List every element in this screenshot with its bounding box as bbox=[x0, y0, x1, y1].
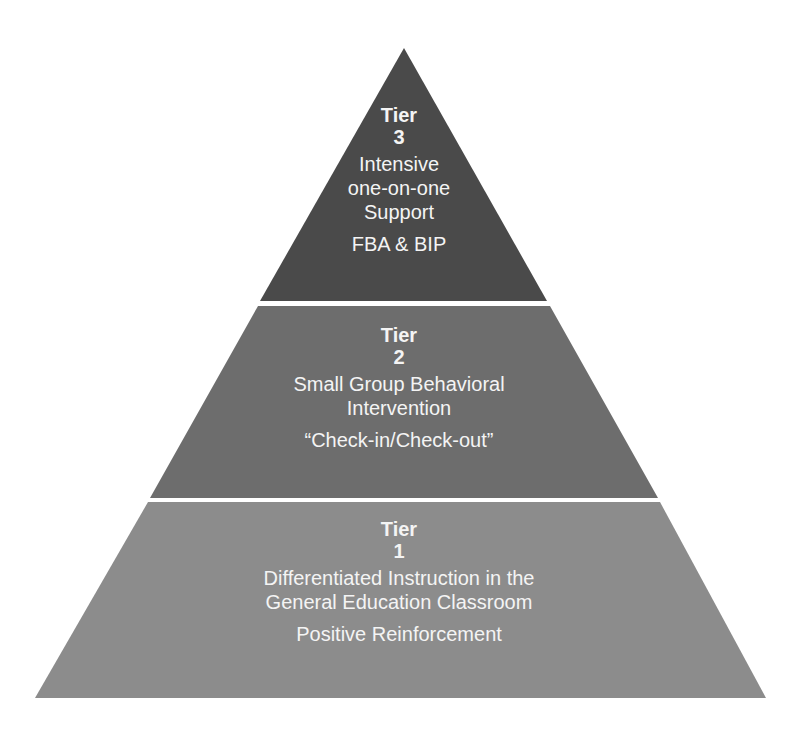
tier-2-number: 2 bbox=[0, 346, 798, 368]
tier-1-title: Tier bbox=[0, 518, 798, 540]
tier-1-number: 1 bbox=[0, 540, 798, 562]
tier-3-title: Tier bbox=[0, 104, 798, 126]
tier-1-description: Differentiated Instruction in the Genera… bbox=[0, 566, 798, 614]
tier-2-title: Tier bbox=[0, 324, 798, 346]
tier-3-number: 3 bbox=[0, 126, 798, 148]
tier-2-label: Tier 2 Small Group Behavioral Interventi… bbox=[0, 324, 798, 452]
tier-3-description: Intensive one-on-one Support bbox=[0, 152, 798, 224]
tier-2-description: Small Group Behavioral Intervention bbox=[0, 372, 798, 420]
tier-1-example: Positive Reinforcement bbox=[0, 622, 798, 646]
tier-3-label: Tier 3 Intensive one-on-one Support FBA … bbox=[0, 104, 798, 256]
tier-3-example: FBA & BIP bbox=[0, 232, 798, 256]
tier-2-example: “Check-in/Check-out” bbox=[0, 428, 798, 452]
tier-1-label: Tier 1 Differentiated Instruction in the… bbox=[0, 518, 798, 646]
